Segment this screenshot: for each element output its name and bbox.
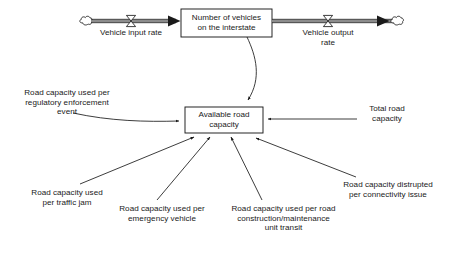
- link-connectivity-issue: [256, 138, 356, 177]
- stock-flow-diagram: Number of vehicles on the interstate Ava…: [0, 0, 450, 253]
- vehicle-input-pipe: [91, 16, 181, 27]
- link-emergency-vehicle: [157, 137, 210, 200]
- regulatory-enforcement-var-label: Road capacity used per regulatory enforc…: [6, 88, 128, 117]
- road-construction-var-label: Road capacity used per road construction…: [215, 204, 352, 233]
- vehicles-stock-label: Number of vehicles on the interstate: [181, 9, 272, 37]
- link-road-construction: [231, 137, 262, 200]
- connectivity-issue-var-label: Road capacity distrupted per connectivit…: [327, 180, 449, 199]
- vehicle-input-rate-label: Vehicle input rate: [95, 28, 167, 38]
- vehicle-output-rate-label: Vehicle output rate: [295, 28, 361, 47]
- available-capacity-stock-label: Available road capacity: [185, 107, 263, 133]
- cloud-source-left-icon: [80, 16, 93, 25]
- vehicles-to-capacity-link: [247, 37, 256, 100]
- vehicle-output-pipe: [272, 16, 395, 27]
- total-road-capacity-var-label: Total road capacity: [358, 104, 416, 123]
- emergency-vehicle-var-label: Road capacity used per emergency vehicle: [101, 204, 223, 223]
- cloud-sink-right-icon: [391, 16, 404, 25]
